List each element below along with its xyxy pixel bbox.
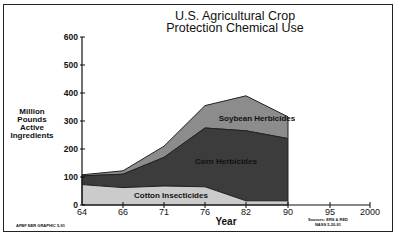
svg-text:66: 66 (118, 207, 128, 217)
cotton-insecticides-label: Cotton Insecticides (134, 191, 208, 200)
footer-sources: Sources: ERS & RED NASS 5-20-91 (308, 217, 348, 227)
svg-text:300: 300 (64, 116, 78, 126)
svg-text:500: 500 (64, 60, 78, 70)
svg-text:64: 64 (77, 207, 87, 217)
svg-text:600: 600 (64, 32, 78, 42)
svg-text:95: 95 (325, 207, 335, 217)
area-chart: U.S. Agricultural Crop Protection Chemic… (0, 0, 399, 235)
svg-text:100: 100 (64, 172, 78, 182)
svg-text:90: 90 (283, 207, 293, 217)
chart-title-line-2: Protection Chemical Use (166, 21, 304, 35)
svg-text:71: 71 (159, 207, 169, 217)
svg-text:NASS 5-20-91: NASS 5-20-91 (315, 222, 342, 227)
svg-text:82: 82 (241, 207, 251, 217)
corn-herbicides-label: Corn Herbicides (195, 157, 257, 166)
footer-credit: AFBF NER GRAPHIC 5-91 (16, 223, 66, 228)
svg-text:400: 400 (64, 88, 78, 98)
svg-text:200: 200 (64, 144, 78, 154)
x-axis-label: Year (215, 216, 236, 227)
y-axis-label: Million Pounds Active Ingredients (10, 107, 54, 140)
svg-text:Ingredients: Ingredients (10, 131, 54, 140)
svg-text:76: 76 (200, 207, 210, 217)
svg-text:2000: 2000 (360, 207, 380, 217)
soybean-herbicides-label: Soybean Herbicides (219, 114, 296, 123)
